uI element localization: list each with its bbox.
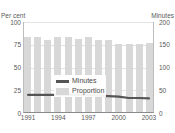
y-tick-label-right: 150 [159,41,170,48]
chart-container: Per cent Minutes 1007550250 200150100500… [0,0,175,133]
plot-area: Minutes Proportion [23,22,154,113]
chart-legend: Minutes Proportion [54,75,106,97]
legend-item-proportion: Proportion [56,86,104,96]
x-tick-label: 1991 [21,114,35,122]
y-tick-label-left: 75 [2,41,21,48]
line-swatch-icon [56,80,69,83]
y-tick-label-right: 100 [159,64,170,71]
legend-item-minutes: Minutes [56,76,104,86]
x-tick-label: 1997 [81,114,95,122]
legend-label-minutes: Minutes [72,77,97,85]
x-axis-ticks: 19911994199720002003 [23,114,154,126]
box-swatch-icon [56,88,69,95]
y-axis-right-ticks: 200150100500 [156,22,175,113]
legend-label-proportion: Proportion [72,87,104,95]
y-tick-label-right: 200 [159,19,170,26]
y-tick-label-left: 50 [2,64,21,71]
y-tick-label-left: 0 [2,110,21,117]
chart-title-clipped [0,0,175,5]
y-axis-left-ticks: 1007550250 [0,22,21,113]
y-tick-label-left: 25 [2,87,21,94]
plot-frame [23,22,154,113]
x-tick-label: 2000 [111,114,125,122]
y-tick-label-right: 50 [159,87,166,94]
y-tick-label-right: 0 [159,110,163,117]
x-tick-label: 2003 [142,114,156,122]
x-tick-label: 1994 [51,114,65,122]
y-tick-label-left: 100 [2,19,21,26]
